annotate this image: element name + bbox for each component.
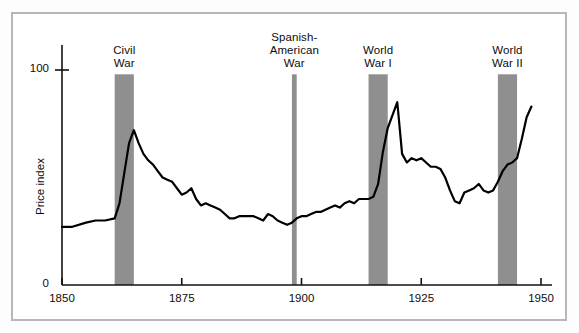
x-tick-label: 1875	[169, 292, 195, 304]
band-label-line: World	[333, 44, 423, 57]
x-tick-label: 1850	[49, 292, 75, 304]
band-label-line: War	[249, 57, 339, 70]
band-label-line: War	[79, 57, 169, 70]
x-tick-label: 1925	[408, 292, 434, 304]
band-label: CivilWar	[79, 44, 169, 70]
y-axis-label: Price index	[34, 158, 46, 215]
x-tick-label: 1950	[528, 292, 554, 304]
x-tick-label: 1900	[289, 292, 315, 304]
band-label-line: Spanish-	[249, 31, 339, 44]
band-label-line: American	[249, 44, 339, 57]
band-label-line: War II	[462, 57, 552, 70]
band-label-line: Civil	[79, 44, 169, 57]
shaded-band	[292, 74, 297, 285]
shaded-band	[498, 74, 517, 285]
band-label: WorldWar I	[333, 44, 423, 70]
band-label: Spanish-AmericanWar	[249, 31, 339, 70]
chart-figure: CivilWarSpanish-AmericanWarWorldWar IWor…	[0, 0, 579, 333]
shaded-bands-group	[115, 74, 517, 285]
y-tick-label: 0	[43, 277, 49, 289]
band-label-line: World	[462, 44, 552, 57]
band-label-line: War I	[333, 57, 423, 70]
y-tick-label: 100	[30, 62, 49, 74]
band-label: WorldWar II	[462, 44, 552, 70]
